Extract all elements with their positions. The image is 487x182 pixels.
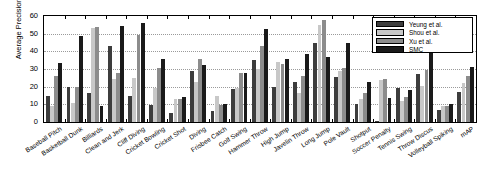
x-tick-mark <box>373 119 374 122</box>
x-tick-mark <box>209 119 210 122</box>
legend-label-shou: Shou et al. <box>409 29 440 36</box>
chart-figure: Average Precision (%) 0102030405060 Base… <box>0 0 487 182</box>
x-tick-mark <box>270 16 271 19</box>
legend-label-yeung: Yeung et al. <box>409 21 443 28</box>
x-tick-mark <box>106 119 107 122</box>
legend-item: Shou et al. <box>376 29 469 37</box>
legend-swatch-xu <box>376 38 404 45</box>
x-tick-mark <box>332 16 333 19</box>
x-tick-mark <box>414 119 415 122</box>
x-tick-mark <box>167 119 168 122</box>
x-tick-mark <box>455 119 456 122</box>
x-tick-mark <box>209 16 210 19</box>
x-tick-mark <box>353 119 354 122</box>
x-tick-label: mAP <box>459 125 475 139</box>
x-tick-mark <box>229 16 230 19</box>
x-tick-mark <box>85 119 86 122</box>
x-tick-mark <box>126 16 127 19</box>
x-tick-mark <box>65 16 66 19</box>
x-tick-mark <box>291 16 292 19</box>
x-tick-mark <box>188 16 189 19</box>
x-tick-mark <box>250 119 251 122</box>
x-tick-mark <box>270 119 271 122</box>
x-tick-mark <box>126 119 127 122</box>
x-tick-mark <box>229 119 230 122</box>
x-tick-mark <box>85 16 86 19</box>
x-tick-mark <box>311 119 312 122</box>
chart-legend: Yeung et al. Shou et al. Xu et al. SMC <box>372 17 473 53</box>
legend-item: SMC <box>376 46 469 54</box>
legend-item: Xu et al. <box>376 37 469 45</box>
legend-swatch-smc <box>376 46 404 53</box>
legend-swatch-shou <box>376 29 404 36</box>
x-tick-mark <box>147 119 148 122</box>
x-tick-mark <box>291 119 292 122</box>
legend-label-xu: Xu et al. <box>409 38 432 45</box>
x-tick-mark <box>167 16 168 19</box>
legend-label-smc: SMC <box>409 46 423 53</box>
x-tick-mark <box>106 16 107 19</box>
x-tick-mark <box>65 119 66 122</box>
x-tick-mark <box>250 16 251 19</box>
x-tick-mark <box>332 119 333 122</box>
legend-swatch-yeung <box>376 21 404 28</box>
x-tick-mark <box>353 16 354 19</box>
x-tick-mark <box>435 119 436 122</box>
legend-item: Yeung et al. <box>376 20 469 28</box>
x-tick-mark <box>394 119 395 122</box>
x-tick-mark <box>311 16 312 19</box>
x-tick-mark <box>188 119 189 122</box>
x-tick-mark <box>147 16 148 19</box>
